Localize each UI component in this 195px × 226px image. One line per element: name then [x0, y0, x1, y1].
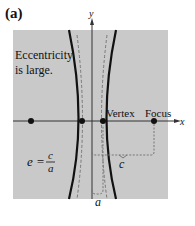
a-label: a — [95, 195, 101, 209]
y-axis-arrow-icon — [90, 18, 94, 25]
vertex-left-point — [79, 118, 85, 124]
focus-left-point — [28, 118, 34, 124]
formula-denominator: a — [48, 162, 54, 174]
c-label: c — [119, 157, 125, 171]
focus-label: Focus — [145, 107, 171, 119]
y-axis-label: y — [88, 8, 94, 19]
eccentricity-text-line1: Eccentricity — [15, 48, 73, 62]
formula-lhs: e = — [27, 154, 45, 169]
formula-numerator: c — [48, 149, 53, 161]
hyperbola-diagram: y x Eccentricity is large. Vertex Focus … — [0, 0, 195, 226]
eccentricity-text-line2: is large. — [15, 63, 53, 77]
x-axis-label: x — [179, 116, 185, 127]
vertex-label: Vertex — [106, 107, 135, 119]
